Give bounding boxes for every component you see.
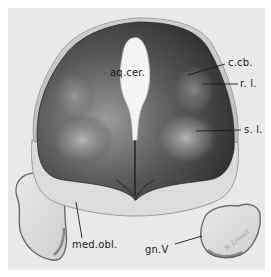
label-aq-cer: aq.cer. bbox=[110, 68, 145, 78]
left-lobe-highlight bbox=[50, 114, 114, 166]
label-gn-v: gn.V bbox=[145, 245, 169, 255]
label-r-l: r. l. bbox=[240, 79, 257, 89]
label-s-l: s. l. bbox=[244, 125, 263, 135]
anatomical-drawing bbox=[0, 0, 271, 277]
label-med-obl: med.obl. bbox=[72, 240, 117, 250]
right-ganglion bbox=[201, 204, 261, 257]
left-upper-lobe bbox=[52, 70, 96, 122]
right-upper-lobe bbox=[172, 64, 216, 116]
right-lobe-highlight bbox=[154, 112, 218, 164]
label-c-cb: c.cb. bbox=[228, 58, 253, 68]
